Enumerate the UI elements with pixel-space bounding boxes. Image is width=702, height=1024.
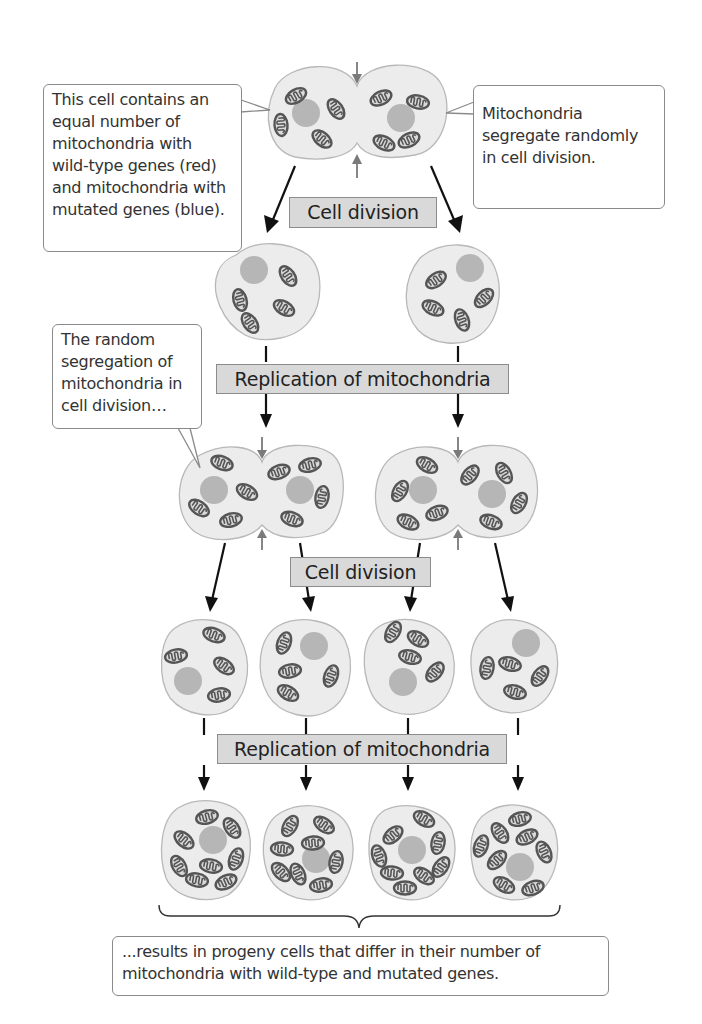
callout-progeny-result: ...results in progeny cells that differ … xyxy=(112,936,609,996)
callout-initial-cell: This cell contains an equal number of mi… xyxy=(43,84,242,252)
callout-tail xyxy=(446,102,474,114)
callout-tail xyxy=(241,100,270,112)
granddaughter-cell-2 xyxy=(260,620,350,716)
label-replication-1: Replication of mitochondria xyxy=(216,364,509,394)
progeny-cell-2 xyxy=(263,806,353,900)
progeny-cell-4 xyxy=(471,805,558,900)
progeny-cell-3 xyxy=(369,806,455,900)
label-replication-2: Replication of mitochondria xyxy=(217,734,507,764)
callout-random-segregation: Mitochondria segregate randomly in cell … xyxy=(473,85,665,209)
callout-random-segregation-cause: The random segregation of mitochondria i… xyxy=(52,324,202,429)
daughter-cell-left xyxy=(216,244,320,340)
callout-tail xyxy=(178,428,200,468)
granddaughter-cell-3 xyxy=(364,619,454,714)
dividing-cell-right xyxy=(375,445,537,539)
progeny-cell-1 xyxy=(162,801,251,900)
label-cell-division-1: Cell division xyxy=(289,197,437,228)
curly-brace-icon xyxy=(159,905,560,928)
granddaughter-cell-4 xyxy=(471,620,558,713)
label-cell-division-2: Cell division xyxy=(290,557,431,587)
dividing-cell-left xyxy=(179,445,343,539)
granddaughter-cell-1 xyxy=(162,620,248,715)
daughter-cell-right xyxy=(406,245,499,343)
